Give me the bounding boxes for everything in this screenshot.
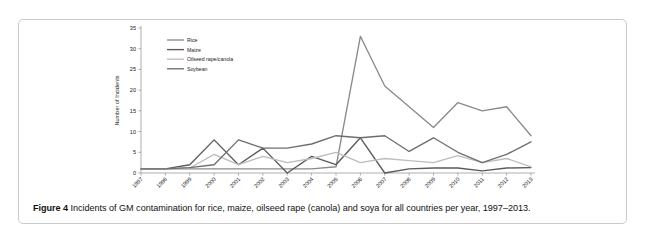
figure-caption: Figure 4 Incidents of GM contamination f…: [33, 202, 616, 214]
y-tick-label: 20: [130, 87, 136, 93]
y-tick-label: 25: [130, 66, 136, 72]
y-axis-title: Number of Incidents: [114, 75, 120, 125]
legend-label-maize: Maize: [187, 47, 201, 53]
x-tick-label: 2002: [253, 176, 266, 189]
x-tick-label: 1997: [131, 176, 144, 189]
x-tick-label: 2011: [472, 176, 485, 189]
x-tick-label: 2000: [204, 176, 217, 189]
x-tick-label: 2001: [228, 176, 241, 189]
y-tick-label: 0: [133, 170, 136, 176]
x-tick-label: 2013: [521, 176, 534, 189]
legend-label-oilseed-rape-canola: Oilseed rape/canola: [187, 56, 233, 62]
y-tick-label: 35: [130, 25, 136, 31]
x-tick-label: 2003: [277, 176, 290, 189]
chart-plot-area: 05101520253035Number of Incidents1997199…: [19, 20, 628, 192]
line-chart: 05101520253035Number of Incidents1997199…: [19, 20, 628, 192]
x-tick-label: 2006: [350, 176, 363, 189]
series-line-maize: [141, 138, 531, 173]
x-tick-label: 1998: [155, 176, 168, 189]
x-tick-label: 2007: [375, 176, 388, 189]
x-tick-label: 2010: [448, 176, 461, 189]
figure-caption-label: Figure 4: [33, 203, 68, 213]
figure-caption-text: Incidents of GM contamination for rice, …: [68, 203, 530, 213]
legend-label-soybean: Soybean: [187, 66, 208, 72]
x-tick-label: 1999: [180, 176, 193, 189]
y-tick-label: 5: [133, 149, 136, 155]
y-tick-label: 10: [130, 129, 136, 135]
figure-card: 05101520253035Number of Incidents1997199…: [18, 19, 627, 224]
x-tick-label: 2005: [326, 176, 339, 189]
x-tick-label: 2009: [423, 176, 436, 189]
x-tick-label: 2008: [399, 176, 412, 189]
y-tick-label: 15: [130, 108, 136, 114]
x-tick-label: 2004: [301, 176, 314, 189]
legend-label-rice: Rice: [187, 37, 197, 43]
x-tick-label: 2012: [496, 176, 509, 189]
y-tick-label: 30: [130, 46, 136, 52]
